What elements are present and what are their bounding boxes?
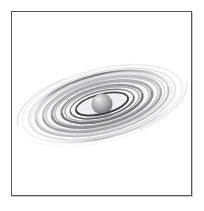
artwork-frame: Spiral galaxy with central sphere Graysc… (11, 11, 192, 196)
spiral-galaxy-illustration: Spiral galaxy with central sphere Graysc… (12, 12, 191, 195)
artwork-stage: Spiral galaxy with central sphere Graysc… (12, 12, 191, 195)
sphere-specular-highlight (95, 96, 102, 101)
screenshot-canvas: Spiral galaxy with central sphere Graysc… (0, 0, 204, 211)
